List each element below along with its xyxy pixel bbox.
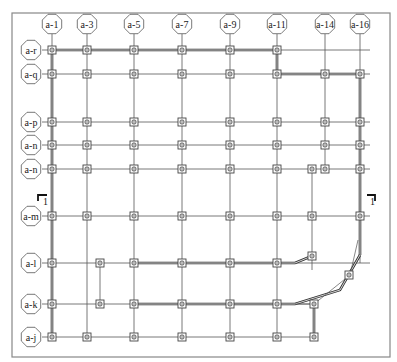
svg-text:a-5: a-5 [128,19,141,30]
svg-text:a-11: a-11 [268,19,285,30]
axis-bubble-a-11: a-11 [267,14,286,33]
svg-text:a-q: a-q [25,69,38,80]
section-mark-left: 1 [38,195,48,207]
svg-text:1: 1 [370,196,375,207]
svg-text:a-7: a-7 [176,19,189,30]
axis-bubble-a-r: a-r [21,40,40,59]
svg-text:a-m: a-m [23,211,39,222]
axis-bubble-a-l: a-l [21,253,40,272]
svg-text:a-14: a-14 [316,19,334,30]
axis-bubble-a-16: a-16 [350,14,369,33]
grid-lines [42,34,370,337]
grid-plan-drawing: a-1a-3a-5a-7a-9a-11a-14a-16a-ra-qa-pa-na… [0,0,397,362]
svg-text:a-1: a-1 [46,19,59,30]
axis-bubble-a-7: a-7 [172,14,191,33]
axis-bubble-a-n: a-n [21,159,40,178]
walls [52,50,360,337]
axis-bubble-a-n: a-n [21,135,40,154]
section-marks: 11 [38,195,375,207]
svg-text:a-j: a-j [26,332,37,343]
axis-bubble-a-m: a-m [21,206,40,225]
drawing-frame [12,13,390,357]
axis-bubble-a-9: a-9 [220,14,239,33]
svg-text:a-p: a-p [25,117,38,128]
axis-bubble-a-k: a-k [21,294,40,313]
svg-text:a-n: a-n [25,140,38,151]
axis-bubble-a-1: a-1 [42,14,61,33]
svg-text:a-n: a-n [25,164,38,175]
axis-bubble-a-14: a-14 [315,14,334,33]
svg-text:a-9: a-9 [224,19,237,30]
svg-text:1: 1 [43,196,48,207]
axis-bubble-a-q: a-q [21,64,40,83]
axis-bubble-a-p: a-p [21,112,40,131]
axis-bubble-a-5: a-5 [124,14,143,33]
section-mark-right: 1 [367,195,375,207]
svg-text:a-k: a-k [25,299,38,310]
svg-text:a-r: a-r [25,45,37,56]
svg-text:a-l: a-l [26,258,37,269]
svg-text:a-16: a-16 [351,19,369,30]
axis-bubble-a-j: a-j [21,327,40,346]
axis-bubble-a-3: a-3 [77,14,96,33]
svg-text:a-3: a-3 [81,19,94,30]
